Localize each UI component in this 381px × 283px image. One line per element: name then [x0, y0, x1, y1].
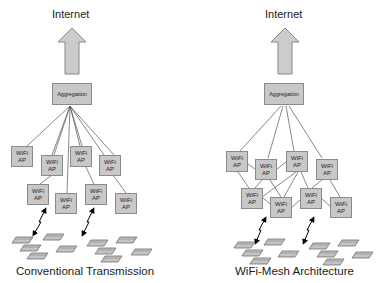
ap-label-line1: WiFi — [231, 155, 243, 162]
wifi-ap-node: WiFiAP — [41, 155, 63, 176]
ap-label-line2: AP — [337, 208, 345, 215]
aggregation-label: Aggregation — [269, 91, 299, 97]
diagram-canvas — [0, 0, 381, 283]
ap-label-line1: WiFi — [16, 150, 28, 157]
ap-label-line2: AP — [62, 204, 70, 211]
wifi-ap-node: WiFiAP — [316, 159, 338, 180]
ap-label-line2: AP — [307, 199, 315, 206]
wifi-ap-node: WiFiAP — [55, 193, 77, 214]
mesh-client-devices — [234, 239, 373, 265]
internet-uplink-arrow-left — [58, 28, 86, 74]
ap-label-line2: AP — [277, 208, 285, 215]
wifi-ap-node: WiFiAP — [226, 151, 248, 172]
ap-label-line1: WiFi — [60, 197, 72, 204]
internet-label-left: Internet — [52, 8, 89, 20]
ap-label-line1: WiFi — [335, 201, 347, 208]
ap-label-line2: AP — [323, 170, 331, 177]
conventional-client-devices — [12, 234, 152, 262]
ap-label-line1: WiFi — [90, 188, 102, 195]
internet-uplink-arrow-right — [271, 28, 299, 74]
ap-label-line2: AP — [122, 204, 130, 211]
ap-label-line2: AP — [293, 162, 301, 169]
ap-label-line2: AP — [92, 195, 100, 202]
ap-label-line1: WiFi — [321, 163, 333, 170]
ap-label-line1: WiFi — [291, 155, 303, 162]
ap-label-line2: AP — [106, 166, 114, 173]
wifi-ap-node: WiFiAP — [85, 184, 107, 205]
ap-label-line1: WiFi — [75, 150, 87, 157]
wifi-ap-node: WiFiAP — [70, 146, 92, 167]
ap-label-line1: WiFi — [104, 159, 116, 166]
internet-label-right: Internet — [265, 8, 302, 20]
ap-label-line2: AP — [34, 195, 42, 202]
ap-label-line1: WiFi — [32, 188, 44, 195]
ap-label-line1: WiFi — [275, 201, 287, 208]
aggregation-label: Aggregation — [57, 91, 87, 97]
ap-label-line1: WiFi — [305, 192, 317, 199]
wifi-ap-node: WiFiAP — [286, 151, 308, 172]
wifi-ap-node: WiFiAP — [115, 193, 137, 214]
wifi-ap-node: WiFiAP — [241, 188, 263, 209]
ap-label-line2: AP — [248, 199, 256, 206]
aggregation-node-left: Aggregation — [52, 83, 92, 105]
ap-label-line2: AP — [77, 157, 85, 164]
ap-label-line2: AP — [233, 162, 241, 169]
mesh-device-arrows — [256, 219, 313, 242]
caption-conventional: Conventional Transmission — [16, 265, 154, 277]
wifi-ap-node: WiFiAP — [255, 159, 277, 180]
ap-label-line2: AP — [262, 170, 270, 177]
wifi-ap-node: WiFiAP — [99, 155, 121, 176]
wifi-ap-node: WiFiAP — [330, 197, 352, 218]
ap-label-line1: WiFi — [46, 159, 58, 166]
caption-mesh: WiFi-Mesh Architecture — [235, 265, 354, 277]
wifi-ap-node: WiFiAP — [270, 197, 292, 218]
ap-label-line1: WiFi — [120, 197, 132, 204]
ap-label-line2: AP — [48, 166, 56, 173]
ap-label-line1: WiFi — [246, 192, 258, 199]
aggregation-node-right: Aggregation — [264, 83, 304, 105]
ap-label-line2: AP — [18, 157, 26, 164]
wifi-ap-node: WiFiAP — [27, 184, 49, 205]
ap-label-line1: WiFi — [260, 163, 272, 170]
wifi-ap-node: WiFiAP — [300, 188, 322, 209]
wifi-ap-node: WiFiAP — [11, 146, 33, 167]
